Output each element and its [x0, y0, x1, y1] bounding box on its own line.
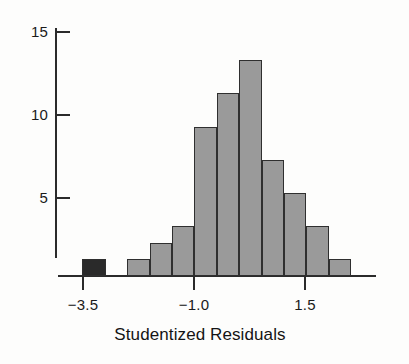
x-tick-label-1.5: 1.5	[269, 297, 341, 312]
histogram-bar	[127, 259, 150, 276]
x-tick-label--1: −1.0	[158, 297, 230, 312]
histogram-bar-highlighted	[82, 259, 106, 276]
histogram-bar	[306, 226, 329, 276]
histogram-bar	[172, 226, 194, 276]
x-tick-label--3.5: −3.5	[47, 297, 119, 312]
histogram-figure: 15105−3.5−1.01.5 Studentized Residuals	[0, 0, 409, 364]
y-tick-15	[57, 31, 70, 33]
x-tick-1.5	[304, 277, 306, 290]
histogram-bar	[262, 160, 284, 276]
y-axis-line	[55, 28, 57, 258]
plot-area: 15105−3.5−1.01.5	[0, 0, 409, 364]
histogram-bar	[239, 60, 262, 276]
y-tick-label-5: 5	[12, 190, 48, 205]
histogram-bar	[150, 243, 172, 276]
x-axis-title: Studentized Residuals	[10, 325, 390, 344]
y-tick-label-10: 10	[12, 107, 48, 122]
histogram-bar	[217, 93, 239, 276]
y-tick-10	[57, 114, 70, 116]
y-tick-label-15: 15	[12, 24, 48, 39]
histogram-bar	[329, 259, 351, 276]
x-tick--3.5	[82, 277, 84, 290]
histogram-bar	[194, 127, 217, 276]
x-tick--1	[193, 277, 195, 290]
histogram-bar	[284, 193, 306, 276]
y-tick-5	[57, 197, 70, 199]
